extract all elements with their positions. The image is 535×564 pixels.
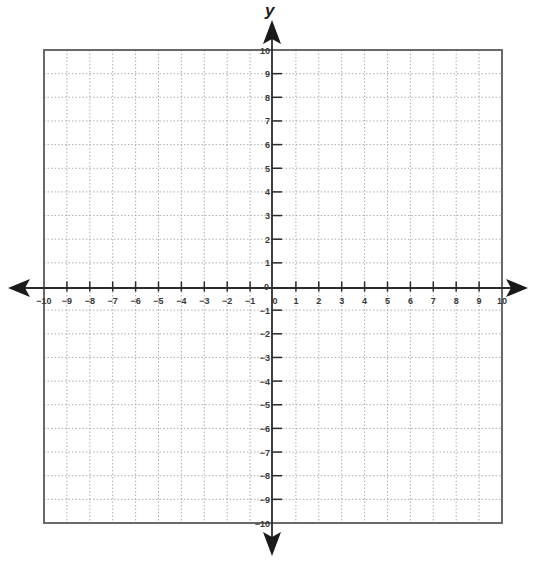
x-tick-label: −6 [130,296,140,306]
y-tick-label: −7 [260,448,270,458]
y-tick-label: 9 [265,69,270,79]
x-tick-label: 6 [408,296,413,306]
x-tick-label: 2 [316,296,321,306]
y-tick-label: 10 [260,46,270,56]
x-tick-label: −8 [85,296,95,306]
y-tick-label: 0 [264,282,269,292]
y-tick-label: 7 [265,116,270,126]
y-tick-label: −2 [260,329,270,339]
x-tick-label: 5 [385,296,390,306]
x-tick-label: 0 [272,296,277,306]
y-tick-label: −1 [260,306,270,316]
x-tick-label: 1 [293,296,298,306]
x-tick-label: 9 [477,296,482,306]
x-tick-label: 8 [454,296,459,306]
y-tick-label: −8 [260,471,270,481]
x-tick-label: 3 [339,296,344,306]
x-tick-label: −9 [62,296,72,306]
y-tick-label: −10 [255,519,270,529]
x-tick-label: 4 [362,296,367,306]
x-tick-label: −10 [36,296,51,306]
y-tick-label: 3 [265,211,270,221]
x-tick-label: 10 [497,296,507,306]
y-tick-label: −4 [260,377,270,387]
x-tick-label: 7 [431,296,436,306]
coordinate-plane: −10−9−8−7−6−5−4−3−2−1012345678910 109876… [0,0,535,564]
y-tick-label: −5 [260,400,270,410]
x-tick-label: −2 [222,296,232,306]
y-tick-label: 5 [265,164,270,174]
y-tick-label: −9 [260,495,270,505]
y-tick-label: −6 [260,424,270,434]
x-tick-label: −5 [153,296,163,306]
y-tick-label: 6 [265,140,270,150]
x-tick-label: −3 [199,296,209,306]
y-tick-label: 2 [265,235,270,245]
x-tick-label: −1 [245,296,255,306]
y-tick-label: 8 [265,93,270,103]
y-axis-title: y [264,1,276,20]
y-tick-label: 4 [265,187,270,197]
y-tick-label: −3 [260,353,270,363]
y-tick-label: 1 [265,258,270,268]
x-tick-label: −4 [176,296,186,306]
x-tick-label: −7 [108,296,118,306]
